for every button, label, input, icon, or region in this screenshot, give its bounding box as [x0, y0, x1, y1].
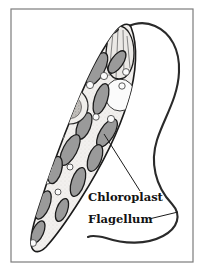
- label-chloroplast: Chloroplast: [88, 190, 164, 204]
- vesicle: [123, 69, 130, 76]
- vesicle: [86, 81, 93, 88]
- label-flagellum: Flagellum: [88, 212, 153, 226]
- vesicle: [107, 115, 114, 122]
- euglena-diagram: Chloroplast Flagellum: [0, 0, 204, 271]
- vesicle: [55, 189, 61, 195]
- vesicle: [100, 72, 107, 79]
- vesicle: [119, 83, 125, 89]
- vesicle: [93, 114, 99, 120]
- diagram-canvas: Chloroplast Flagellum: [0, 0, 204, 271]
- vesicle: [67, 164, 73, 170]
